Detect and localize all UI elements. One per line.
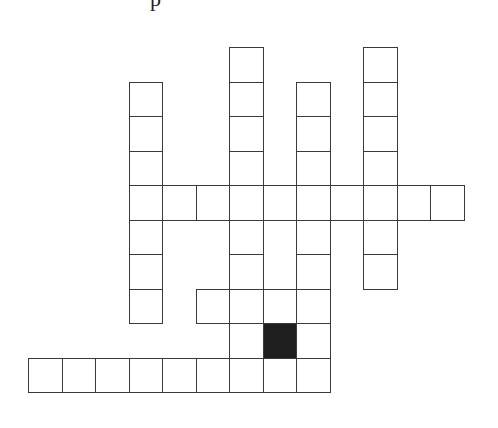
crossword-cell[interactable] xyxy=(196,289,231,325)
crossword-cell[interactable] xyxy=(363,47,398,83)
crossword-cell[interactable] xyxy=(363,82,398,118)
crossword-cell[interactable] xyxy=(229,358,264,394)
crossword-cell[interactable] xyxy=(263,358,298,394)
crossword-cell[interactable] xyxy=(229,185,264,221)
crossword-cell[interactable] xyxy=(229,254,264,290)
crossword-cell[interactable] xyxy=(129,185,164,221)
crossword-cell[interactable] xyxy=(430,185,465,221)
crossword-cell[interactable] xyxy=(229,323,264,359)
crossword-cell[interactable] xyxy=(363,116,398,152)
crossword-cell[interactable] xyxy=(196,185,231,221)
crossword-cell[interactable] xyxy=(296,82,331,118)
crossword-cell[interactable] xyxy=(363,185,398,221)
crossword-cell[interactable] xyxy=(296,185,331,221)
crossword-cell[interactable] xyxy=(162,358,197,394)
crossword-cell[interactable] xyxy=(229,47,264,83)
crossword-cell[interactable] xyxy=(296,289,331,325)
crossword-cell[interactable] xyxy=(129,82,164,118)
crossword-cell[interactable] xyxy=(363,254,398,290)
crossword-cell[interactable] xyxy=(363,151,398,187)
crossword-cell[interactable] xyxy=(229,82,264,118)
crossword-cell[interactable] xyxy=(95,358,130,394)
crossword-grid xyxy=(0,0,498,428)
crossword-cell[interactable] xyxy=(162,185,197,221)
crossword-cell[interactable] xyxy=(263,289,298,325)
crossword-cell[interactable] xyxy=(296,254,331,290)
crossword-cell[interactable] xyxy=(229,116,264,152)
crossword-cell[interactable] xyxy=(263,185,298,221)
crossword-cell[interactable] xyxy=(129,116,164,152)
crossword-cell[interactable] xyxy=(196,358,231,394)
black-cell xyxy=(263,323,298,359)
crossword-cell[interactable] xyxy=(129,358,164,394)
crossword-cell[interactable] xyxy=(296,116,331,152)
crossword-cell[interactable] xyxy=(129,254,164,290)
crossword-cell[interactable] xyxy=(62,358,97,394)
crossword-cell[interactable] xyxy=(229,289,264,325)
crossword-cell[interactable] xyxy=(28,358,63,394)
crossword-cell[interactable] xyxy=(129,151,164,187)
crossword-cell[interactable] xyxy=(296,323,331,359)
crossword-cell[interactable] xyxy=(330,185,365,221)
crossword-cell[interactable] xyxy=(129,220,164,256)
crossword-cell[interactable] xyxy=(129,289,164,325)
crossword-cell[interactable] xyxy=(296,358,331,394)
crossword-cell[interactable] xyxy=(229,220,264,256)
crossword-cell[interactable] xyxy=(229,151,264,187)
crossword-cell[interactable] xyxy=(397,185,432,221)
crossword-cell[interactable] xyxy=(296,220,331,256)
crossword-cell[interactable] xyxy=(296,151,331,187)
crossword-cell[interactable] xyxy=(363,220,398,256)
